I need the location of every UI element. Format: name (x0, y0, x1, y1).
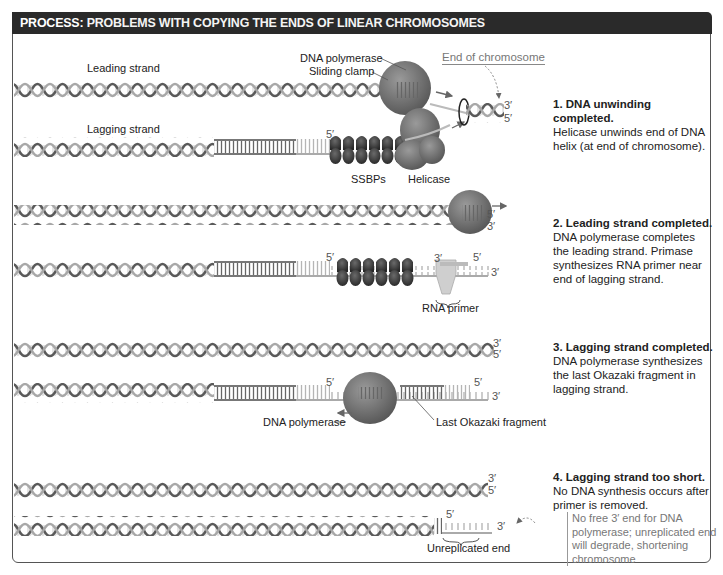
rna-primer-label: RNA primer (422, 302, 479, 314)
step-1-title: 1. DNA unwinding completed. (553, 97, 713, 125)
prime-3: 3′ (434, 252, 442, 264)
end-of-chromosome-label: End of chromosome (442, 51, 545, 65)
dna-polymerase-label: DNA polymerase (300, 52, 383, 64)
prime-5: 5′ (488, 484, 496, 496)
step-3-title: 3. Lagging strand completed. (553, 340, 713, 354)
prime-5: 5′ (487, 208, 495, 220)
panel-4-art (14, 478, 535, 546)
prime-5: 5′ (326, 251, 334, 263)
step-3-description: 3. Lagging strand completed. DNA polymer… (553, 340, 713, 396)
step-3-body: DNA polymerase synthesizes the last Okaz… (553, 355, 703, 395)
prime-5: 5′ (504, 112, 512, 124)
prime-5: 5′ (474, 376, 482, 388)
helicase-label: Helicase (408, 173, 450, 185)
lagging-strand-label: Lagging strand (87, 123, 160, 135)
leading-strand-label: Leading strand (87, 62, 160, 74)
prime-5: 5′ (446, 508, 454, 520)
prime-5: 5′ (326, 376, 334, 388)
prime-5: 5′ (473, 251, 481, 263)
panel-3-art (14, 338, 494, 424)
prime-5: 5′ (326, 128, 334, 140)
panel-2-art (14, 190, 506, 308)
step-4-title: 4. Lagging strand too short. (553, 470, 713, 484)
step-1-body: Helicase unwinds end of DNA helix (at en… (553, 126, 705, 152)
prime-3: 3′ (487, 220, 495, 232)
unreplicated-end-label: Unreplicated end (427, 542, 510, 554)
step-4-body: No DNA synthesis occurs after primer is … (553, 485, 709, 511)
prime-3: 3′ (488, 472, 496, 484)
last-okazaki-fragment-label: Last Okazaki fragment (436, 416, 546, 428)
dna-polymerase-label: DNA polymerase (263, 416, 346, 428)
prime-5: 5′ (493, 348, 501, 360)
step-2-body: DNA polymerase completes the leading str… (553, 231, 702, 285)
step-4-description: 4. Lagging strand too short. No DNA synt… (553, 470, 713, 512)
ssbps-label: SSBPs (351, 173, 386, 185)
step-2-title: 2. Leading strand completed. (553, 216, 713, 230)
step-1-description: 1. DNA unwinding completed. Helicase unw… (553, 97, 713, 153)
prime-3: 3′ (497, 520, 505, 532)
shortening-note: No free 3′ end for DNA polymerase; unrep… (567, 512, 722, 566)
prime-3: 3′ (492, 390, 500, 402)
prime-3: 3′ (491, 266, 499, 278)
sliding-clamp-label: Sliding clamp (309, 65, 374, 77)
step-2-description: 2. Leading strand completed. DNA polymer… (553, 216, 713, 286)
prime-3: 3′ (504, 99, 512, 111)
panel-1-art (14, 58, 504, 170)
